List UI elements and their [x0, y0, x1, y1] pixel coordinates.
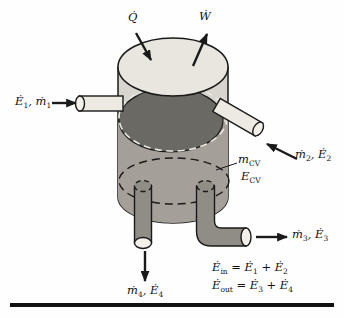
tank-top-opening	[118, 38, 228, 96]
control-volume-diagram	[0, 0, 344, 318]
inlet2-arrow	[267, 144, 297, 159]
inlet1-pipe	[79, 96, 123, 111]
energy-cv-label: ECV	[241, 170, 261, 187]
inlet1-pipe-opening	[76, 96, 85, 111]
outlet4-pipe-top-dashed	[135, 181, 152, 192]
outlet3-pipe-opening	[241, 228, 251, 246]
cv-labels: mCV ECV	[238, 153, 261, 186]
heat-label: Q̇	[128, 11, 137, 24]
outlet4-pipe-opening	[135, 238, 152, 249]
outlet3-pipe-top-dashed	[197, 181, 214, 192]
outlet4-label: ṁ4, Ė4	[127, 284, 163, 301]
work-label: Ẇ	[199, 10, 211, 23]
inlet2-label: ṁ2, Ė2	[295, 148, 331, 165]
energy-out-equation: Ėout = Ė3 + Ė4	[212, 279, 293, 296]
figure-canvas: Q̇ Ẇ Ė1, ṁ1 ṁ2, Ė2 mCV ECV ṁ3, Ė3 ṁ4, Ė4…	[0, 0, 344, 318]
outlet4-pipe	[135, 186, 152, 243]
liquid-surface	[119, 88, 223, 152]
mass-cv-label: mCV	[238, 153, 261, 170]
energy-in-equation: Ėin = Ė1 + Ė2	[212, 261, 288, 278]
inlet1-label: Ė1, ṁ1	[15, 95, 51, 112]
outlet3-label: ṁ3, Ė3	[292, 228, 328, 245]
